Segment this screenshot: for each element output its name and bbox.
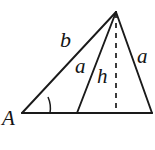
label-side-a: a xyxy=(137,46,148,67)
label-altitude-h: h xyxy=(97,66,108,87)
label-cevian-a: a xyxy=(75,56,86,77)
geometry-figure: A b a h a xyxy=(0,0,155,150)
label-side-b: b xyxy=(60,29,71,51)
label-vertex-a: A xyxy=(2,108,15,129)
angle-a-arc xyxy=(48,97,50,113)
